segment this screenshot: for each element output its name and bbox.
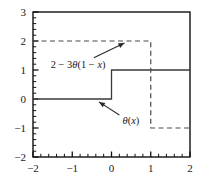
- x-tick-label: 0: [109, 162, 115, 174]
- y-tick-label: 0: [21, 93, 27, 105]
- plot-svg: −2−1012 3210−1−2 2 − 3θ(1 − x)θ(x): [0, 0, 202, 186]
- annotation-arrow-2: [99, 102, 119, 115]
- y-tick-label: −2: [14, 151, 26, 163]
- y-tick-label: 2: [21, 35, 27, 47]
- y-tick-label: 3: [21, 6, 27, 18]
- x-axis-tick-labels: −2−1012: [27, 162, 193, 174]
- figure-container: −2−1012 3210−1−2 2 − 3θ(1 − x)θ(x): [0, 0, 202, 186]
- x-tick-label: −1: [66, 162, 78, 174]
- y-tick-label: −1: [14, 122, 26, 134]
- data-series-group: [33, 41, 190, 128]
- annotation-arrows: [94, 43, 125, 115]
- x-tick-label: 2: [187, 162, 193, 174]
- annotation-arrow-1: [94, 43, 125, 58]
- y-tick-label: 1: [21, 64, 27, 76]
- annotation-label-2: θ(x): [122, 115, 139, 127]
- series-1-line: [33, 70, 190, 99]
- annotation-label-1: 2 − 3θ(1 − x): [51, 59, 106, 71]
- annotation-labels: 2 − 3θ(1 − x)θ(x): [51, 59, 140, 127]
- y-axis-major-ticks: [33, 12, 39, 157]
- x-tick-label: −2: [27, 162, 39, 174]
- y-axis-tick-labels: 3210−1−2: [14, 6, 26, 163]
- x-tick-label: 1: [148, 162, 154, 174]
